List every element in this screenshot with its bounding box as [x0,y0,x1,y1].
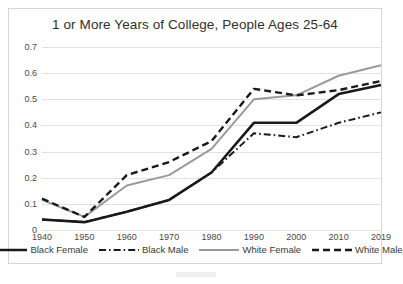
chart-title: 1 or More Years of College, People Ages … [9,17,381,32]
legend-item-white-female[interactable]: White Female [199,245,301,255]
y-axis-tick-label: 0.3 [11,147,37,156]
series-lines [42,47,381,230]
y-axis-tick-label: 0.5 [11,95,37,104]
x-axis-tick-label: 1980 [201,233,221,242]
legend-label: White Male [355,245,403,255]
legend-item-white-male[interactable]: White Male [312,245,403,255]
x-axis-tick-label: 1950 [74,233,94,242]
legend-item-black-female[interactable]: Black Female [0,245,88,255]
y-axis-tick-label: 0.4 [11,121,37,130]
x-axis-tick-label: 1960 [117,233,137,242]
series-line-black-female [42,85,381,222]
legend-label: Black Male [142,245,188,255]
legend-swatch-black-female [0,245,27,255]
gridline [42,230,381,231]
x-axis-tick-label: 2019 [371,233,391,242]
y-axis-tick-label: 0.2 [11,173,37,182]
x-axis-tick-label: 1990 [244,233,264,242]
legend-label: Black Female [30,245,88,255]
legend-swatch-black-male [99,245,139,255]
page-artifact [176,272,216,277]
plot-area: 00.10.20.30.40.50.60.7 [42,47,381,230]
chart-card: 1 or More Years of College, People Ages … [8,8,382,264]
x-axis-tick-label: 2010 [329,233,349,242]
legend-swatch-white-male [312,245,352,255]
series-line-white-female [42,65,381,217]
y-axis-tick-label: 0.7 [11,43,37,52]
y-axis-tick-label: 0.6 [11,69,37,78]
legend-swatch-white-female [199,245,239,255]
legend-label: White Female [242,245,301,255]
legend-item-black-male[interactable]: Black Male [99,245,188,255]
y-axis-tick-label: 0.1 [11,199,37,208]
x-axis-tick-label: 2000 [286,233,306,242]
x-axis-tick-label: 1970 [159,233,179,242]
chart-legend: Black FemaleBlack MaleWhite FemaleWhite … [9,245,381,255]
x-axis-tick-label: 1940 [32,233,52,242]
series-line-black-male [42,112,381,222]
